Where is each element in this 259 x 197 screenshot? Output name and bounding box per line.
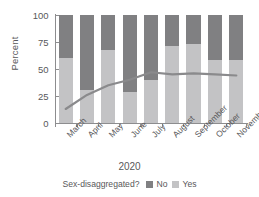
bar-segment-no bbox=[123, 15, 137, 92]
bar-slot bbox=[162, 15, 183, 123]
stacked-bar[interactable] bbox=[186, 15, 200, 123]
legend-swatch-yes bbox=[172, 181, 179, 188]
y-axis-title: Percent bbox=[9, 19, 20, 89]
x-tick-label-group: MarchAprilMayJuneJulyAugustSeptemberOcto… bbox=[55, 127, 247, 159]
bar-segment-no bbox=[208, 15, 222, 60]
bar-segment-no bbox=[80, 15, 94, 90]
stacked-bar-chart: Percent 0255075100 MarchAprilMayJuneJuly… bbox=[0, 0, 259, 197]
y-tick: 0 bbox=[43, 114, 55, 132]
y-tick-mark bbox=[56, 69, 60, 70]
stacked-bar[interactable] bbox=[229, 15, 243, 123]
stacked-bar[interactable] bbox=[123, 15, 137, 123]
bar-segment-yes bbox=[186, 44, 200, 123]
legend-label-no: No bbox=[156, 179, 167, 189]
x-tick-label-cell: November bbox=[226, 127, 247, 159]
bar-segment-yes bbox=[144, 80, 158, 123]
legend-label-yes: Yes bbox=[182, 179, 196, 189]
legend-item-no[interactable]: No bbox=[146, 179, 167, 189]
bar-segment-yes bbox=[101, 50, 115, 123]
x-tick-label-cell: May bbox=[98, 127, 119, 159]
y-tick: 25 bbox=[38, 87, 55, 105]
x-tick-label-cell: August bbox=[162, 127, 183, 159]
y-tick-mark bbox=[56, 15, 60, 16]
y-tick: 100 bbox=[33, 6, 55, 24]
x-tick-label-cell: June bbox=[119, 127, 140, 159]
legend: Sex-disaggregated? No Yes bbox=[0, 179, 259, 189]
x-tick-label-cell: March bbox=[55, 127, 76, 159]
x-tick-label-cell: July bbox=[140, 127, 161, 159]
legend-item-yes[interactable]: Yes bbox=[172, 179, 196, 189]
bar-segment-no bbox=[101, 15, 115, 50]
stacked-bar[interactable] bbox=[144, 15, 158, 123]
bar-segment-no bbox=[165, 15, 179, 46]
y-tick-label: 75 bbox=[38, 37, 49, 48]
x-tick-label-cell: September bbox=[183, 127, 204, 159]
bar-segment-no bbox=[144, 15, 158, 80]
bar-segment-yes bbox=[165, 46, 179, 123]
bar-segment-no bbox=[59, 15, 73, 58]
bar-slot bbox=[98, 15, 119, 123]
x-tick-label-cell: October bbox=[204, 127, 225, 159]
bar-slot bbox=[119, 15, 140, 123]
x-tick-label-cell: April bbox=[76, 127, 97, 159]
legend-title: Sex-disaggregated? bbox=[63, 179, 140, 189]
bar-slot bbox=[183, 15, 204, 123]
stacked-bar[interactable] bbox=[59, 15, 73, 123]
bar-slot bbox=[140, 15, 161, 123]
y-tick-mark bbox=[56, 42, 60, 43]
bar-segment-yes bbox=[123, 92, 137, 123]
y-tick: 75 bbox=[38, 33, 55, 51]
stacked-bar[interactable] bbox=[165, 15, 179, 123]
y-tick-label: 25 bbox=[38, 91, 49, 102]
bar-segment-no bbox=[186, 15, 200, 44]
stacked-bar[interactable] bbox=[101, 15, 115, 123]
legend-swatch-no bbox=[146, 181, 153, 188]
x-axis-title: 2020 bbox=[0, 161, 259, 172]
y-tick: 50 bbox=[38, 60, 55, 78]
bar-slot bbox=[76, 15, 97, 123]
y-tick-label: 100 bbox=[33, 10, 49, 21]
bar-segment-yes bbox=[59, 58, 73, 123]
y-tick-mark bbox=[56, 96, 60, 97]
bar-slot bbox=[226, 15, 247, 123]
y-tick-label: 0 bbox=[43, 118, 48, 129]
bar-segment-no bbox=[229, 15, 243, 60]
y-tick-label: 50 bbox=[38, 64, 49, 75]
stacked-bar[interactable] bbox=[80, 15, 94, 123]
